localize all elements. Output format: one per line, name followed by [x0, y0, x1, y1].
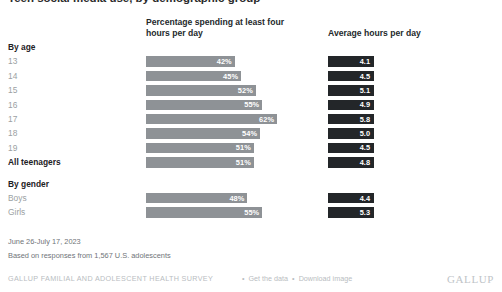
average-hours-chip: 5.1 — [328, 85, 374, 96]
average-hours-value: 4.4 — [360, 193, 370, 204]
percentage-bar-value: 55% — [244, 207, 259, 218]
group-heading-row: By age — [0, 40, 502, 54]
percentage-bar-value: 51% — [236, 143, 251, 154]
average-hours-chip-wrap: 4.5 — [328, 143, 374, 154]
gallup-logo: GALLUP — [447, 272, 494, 286]
average-hours-chip-wrap: 4.4 — [328, 193, 374, 204]
percentage-bar-value: 51% — [236, 157, 251, 168]
download-image-link[interactable]: Download image — [299, 274, 353, 283]
percentage-bar: 48% — [146, 193, 247, 204]
percentage-bar: 62% — [146, 114, 277, 125]
average-hours-chip: 4.1 — [328, 56, 374, 67]
average-hours-value: 5.8 — [360, 114, 370, 125]
chart-row: Girls55%5.3 — [0, 205, 502, 219]
percentage-bar-value: 48% — [229, 193, 244, 204]
row-spacer — [0, 170, 502, 177]
average-hours-value: 4.5 — [360, 71, 370, 82]
average-hours-value: 5.0 — [360, 128, 370, 139]
source-separator-2: • — [290, 274, 297, 283]
source-survey-name: GALLUP FAMILIAL AND ADOLESCENT HEALTH SU… — [8, 273, 213, 285]
column-header-average: Average hours per day — [328, 28, 478, 39]
percentage-bar-track: 52% — [146, 85, 294, 96]
average-hours-value: 5.1 — [360, 85, 370, 96]
row-label: 18 — [8, 127, 17, 139]
average-hours-chip: 4.5 — [328, 143, 374, 154]
percentage-bar: 51% — [146, 143, 254, 154]
average-hours-chip-wrap: 5.1 — [328, 85, 374, 96]
percentage-bar-track: 55% — [146, 100, 294, 111]
percentage-bar: 51% — [146, 157, 254, 168]
chart-row: All teenagers51%4.8 — [0, 155, 502, 169]
percentage-bar-value: 62% — [259, 114, 274, 125]
row-label: 15 — [8, 84, 17, 96]
percentage-bar: 52% — [146, 85, 256, 96]
chart-row: 1655%4.9 — [0, 98, 502, 112]
percentage-bar-value: 42% — [217, 56, 232, 67]
source-bar: GALLUP FAMILIAL AND ADOLESCENT HEALTH SU… — [8, 273, 494, 285]
percentage-bar: 45% — [146, 71, 241, 82]
percentage-bar-value: 55% — [244, 100, 259, 111]
chart-row: 1854%5.0 — [0, 126, 502, 140]
average-hours-chip-wrap: 4.5 — [328, 71, 374, 82]
chart-row: 1951%4.5 — [0, 141, 502, 155]
average-hours-chip: 5.0 — [328, 128, 374, 139]
average-hours-chip-wrap: 4.1 — [328, 56, 374, 67]
average-hours-value: 4.9 — [360, 100, 370, 111]
average-hours-value: 4.1 — [360, 56, 370, 67]
percentage-bar-track: 51% — [146, 157, 294, 168]
percentage-bar: 55% — [146, 207, 262, 218]
percentage-bar-value: 54% — [242, 128, 257, 139]
chart-row: Boys48%4.4 — [0, 191, 502, 205]
average-hours-chip: 4.8 — [328, 157, 374, 168]
average-hours-value: 4.5 — [360, 143, 370, 154]
percentage-bar-track: 51% — [146, 143, 294, 154]
chart-title-text: Teen social media use, by demographic gr… — [8, 0, 408, 5]
chart-row: 1342%4.1 — [0, 54, 502, 68]
average-hours-chip-wrap: 4.8 — [328, 157, 374, 168]
percentage-bar-track: 54% — [146, 128, 294, 139]
percentage-bar-track: 45% — [146, 71, 294, 82]
row-label: 16 — [8, 99, 17, 111]
average-hours-chip: 4.9 — [328, 100, 374, 111]
chart-row: 1445%4.5 — [0, 69, 502, 83]
row-label: Girls — [8, 206, 25, 218]
percentage-bar-track: 55% — [146, 207, 294, 218]
source-links: • Get the data • Download image — [240, 273, 352, 285]
average-hours-value: 5.3 — [360, 207, 370, 218]
average-hours-chip-wrap: 4.9 — [328, 100, 374, 111]
get-the-data-link[interactable]: Get the data — [249, 274, 289, 283]
row-label: 13 — [8, 55, 17, 67]
chart-row: 1762%5.8 — [0, 112, 502, 126]
average-hours-chip: 5.8 — [328, 114, 374, 125]
average-hours-chip-wrap: 5.0 — [328, 128, 374, 139]
column-header-percentage: Percentage spending at least four hours … — [146, 17, 306, 39]
percentage-bar-value: 52% — [238, 85, 253, 96]
row-label: Boys — [8, 192, 27, 204]
percentage-bar-track: 42% — [146, 56, 294, 67]
percentage-bar: 55% — [146, 100, 262, 111]
percentage-bar-track: 48% — [146, 193, 294, 204]
row-label: 14 — [8, 70, 17, 82]
row-label: By age — [8, 41, 35, 53]
group-heading-row: By gender — [0, 177, 502, 191]
average-hours-chip: 5.3 — [328, 207, 374, 218]
percentage-bar: 54% — [146, 128, 260, 139]
average-hours-chip: 4.5 — [328, 71, 374, 82]
footnote-sample: Based on responses from 1,567 U.S. adole… — [8, 251, 171, 260]
chart-row: 1552%5.1 — [0, 83, 502, 97]
row-label: 17 — [8, 113, 17, 125]
average-hours-chip: 4.4 — [328, 193, 374, 204]
row-label: By gender — [8, 178, 49, 190]
row-label: All teenagers — [8, 156, 61, 168]
percentage-bar: 42% — [146, 56, 235, 67]
footnote-dates: June 26-July 17, 2023 — [8, 237, 81, 246]
chart-rows: By age1342%4.11445%4.51552%5.11655%4.917… — [0, 40, 502, 220]
average-hours-chip-wrap: 5.8 — [328, 114, 374, 125]
source-separator-1: • — [240, 274, 247, 283]
percentage-bar-track: 62% — [146, 114, 294, 125]
average-hours-value: 4.8 — [360, 157, 370, 168]
percentage-bar-value: 45% — [223, 71, 238, 82]
chart-title: Teen social media use, by demographic gr… — [8, 0, 408, 5]
average-hours-chip-wrap: 5.3 — [328, 207, 374, 218]
row-label: 19 — [8, 142, 17, 154]
